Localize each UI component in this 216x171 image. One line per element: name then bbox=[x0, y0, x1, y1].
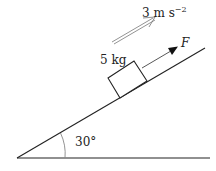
acceleration-exponent: −2 bbox=[175, 5, 187, 14]
force-label: F bbox=[181, 37, 189, 49]
mass-label: 5 kg bbox=[100, 54, 126, 66]
angle-arc bbox=[61, 133, 66, 158]
force-arrowhead-icon bbox=[168, 47, 178, 56]
incline-diagram bbox=[0, 0, 216, 171]
acceleration-value: 3 bbox=[142, 6, 150, 20]
accel-arrow-line-2 bbox=[114, 20, 155, 44]
accel-arrow-line-1 bbox=[112, 18, 153, 42]
force-arrow-shaft bbox=[142, 52, 170, 69]
acceleration-unit: m s bbox=[153, 6, 174, 20]
angle-label: 30° bbox=[75, 136, 96, 148]
acceleration-label: 3 m s−2 bbox=[142, 6, 187, 19]
